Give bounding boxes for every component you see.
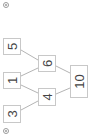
- node-label: 3: [5, 110, 20, 117]
- node-4: 4: [39, 89, 56, 106]
- node-label: 6: [40, 60, 55, 67]
- edge-6-10: [56, 66, 70, 73]
- edge-1-4: [21, 85, 38, 93]
- top-marker-dot: [5, 4, 7, 6]
- node-label: 5: [5, 43, 20, 50]
- node-1: 1: [4, 73, 21, 89]
- number-pyramid-diagram: 5 1 3 6 4 10: [0, 0, 89, 137]
- node-3: 3: [4, 106, 21, 123]
- node-label: 1: [5, 77, 20, 84]
- edge-1-6: [21, 68, 38, 76]
- node-label: 4: [40, 93, 55, 100]
- node-10: 10: [71, 66, 88, 98]
- node-6: 6: [39, 56, 56, 72]
- node-5: 5: [4, 39, 21, 55]
- edge-3-4: [21, 101, 38, 110]
- edge-4-10: [56, 88, 70, 94]
- edge-5-6: [21, 50, 38, 60]
- node-label: 10: [72, 74, 87, 88]
- bottom-marker-dot: [5, 130, 7, 132]
